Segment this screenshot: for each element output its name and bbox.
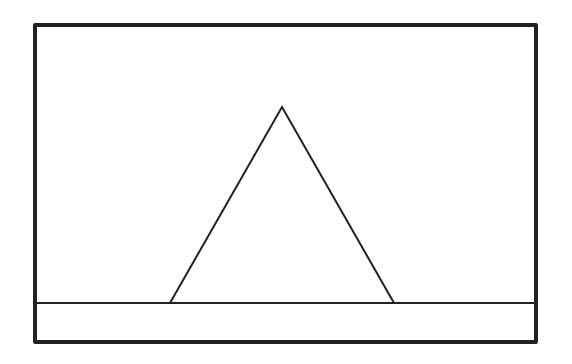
outer-frame <box>35 25 536 342</box>
triangle-shape <box>170 107 394 303</box>
diagram-canvas <box>0 0 572 364</box>
